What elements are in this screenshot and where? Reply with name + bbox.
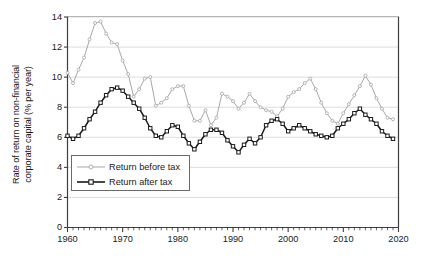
- x-tick-label: 2000: [268, 234, 308, 244]
- data-point-marker: [325, 136, 328, 139]
- data-point-marker: [314, 88, 317, 91]
- data-point-marker: [115, 86, 118, 89]
- data-point-marker: [72, 82, 75, 85]
- data-point-marker: [71, 137, 74, 140]
- chart-legend: Return before taxReturn after tax: [71, 155, 190, 191]
- y-tick-label: 4: [40, 162, 62, 172]
- data-point-marker: [160, 136, 163, 139]
- data-point-marker: [254, 100, 257, 103]
- data-point-marker: [94, 22, 97, 25]
- series-line: [68, 22, 393, 126]
- data-point-marker: [182, 85, 185, 88]
- data-point-marker: [347, 118, 350, 121]
- data-point-marker: [77, 68, 80, 71]
- data-point-marker: [110, 87, 113, 90]
- data-point-marker: [286, 130, 289, 133]
- data-point-marker: [320, 101, 323, 104]
- data-point-marker: [176, 125, 179, 128]
- data-point-marker: [358, 107, 361, 110]
- data-point-marker: [88, 38, 91, 41]
- x-tick-label: 2020: [379, 234, 419, 244]
- y-tick-label: 10: [40, 72, 62, 82]
- data-point-marker: [93, 110, 96, 113]
- data-point-marker: [331, 119, 334, 122]
- data-point-marker: [342, 112, 345, 115]
- data-point-marker: [275, 118, 278, 121]
- data-point-marker: [220, 92, 223, 95]
- data-point-marker: [215, 116, 218, 119]
- data-point-marker: [270, 110, 273, 113]
- data-point-marker: [369, 118, 372, 121]
- chart-figure: Rate of return on non-financial corporat…: [0, 0, 423, 259]
- data-point-marker: [160, 101, 163, 104]
- data-point-marker: [380, 107, 383, 110]
- data-point-marker: [270, 119, 273, 122]
- chart-plot-area: [0, 0, 423, 259]
- legend-label: Return before tax: [106, 162, 180, 172]
- data-point-marker: [226, 139, 229, 142]
- data-point-marker: [336, 127, 339, 130]
- data-point-marker: [380, 130, 383, 133]
- data-point-marker: [292, 127, 295, 130]
- data-point-marker: [132, 101, 135, 104]
- data-point-marker: [182, 134, 185, 137]
- data-point-marker: [314, 133, 317, 136]
- data-point-marker: [248, 92, 251, 95]
- y-tick-label: 14: [40, 12, 62, 22]
- data-point-marker: [358, 85, 361, 88]
- data-point-marker: [237, 151, 240, 154]
- data-point-marker: [138, 88, 141, 91]
- data-point-marker: [126, 95, 129, 98]
- y-tick-label: 6: [40, 132, 62, 142]
- data-point-marker: [149, 127, 152, 130]
- legend-line-square-icon: [76, 175, 106, 189]
- data-point-marker: [303, 82, 306, 85]
- legend-item-return-before-tax: Return before tax: [76, 159, 185, 174]
- data-point-marker: [209, 128, 212, 131]
- data-point-marker: [220, 131, 223, 134]
- y-tick-label: 8: [40, 102, 62, 112]
- data-point-marker: [248, 137, 251, 140]
- data-point-marker: [243, 101, 246, 104]
- data-point-marker: [298, 88, 301, 91]
- data-point-marker: [165, 97, 168, 100]
- data-point-marker: [88, 118, 91, 121]
- data-point-marker: [292, 91, 295, 94]
- x-tick-label: 1990: [213, 234, 253, 244]
- data-point-marker: [154, 104, 157, 107]
- x-tick-label: 2010: [323, 234, 363, 244]
- data-point-marker: [82, 127, 85, 130]
- x-tick-label: 1980: [158, 234, 198, 244]
- data-point-marker: [259, 136, 262, 139]
- data-point-marker: [353, 112, 356, 115]
- data-point-marker: [121, 89, 124, 92]
- data-point-marker: [209, 124, 212, 127]
- data-point-marker: [83, 56, 86, 59]
- data-point-marker: [242, 143, 245, 146]
- legend-item-return-after-tax: Return after tax: [76, 174, 185, 189]
- data-point-marker: [281, 122, 284, 125]
- data-point-marker: [116, 43, 119, 46]
- legend-line-circle-icon: [76, 160, 106, 174]
- data-point-marker: [66, 134, 69, 137]
- data-point-marker: [66, 71, 69, 74]
- data-point-marker: [215, 128, 218, 131]
- data-point-marker: [193, 119, 196, 122]
- data-point-marker: [375, 122, 378, 125]
- data-point-marker: [364, 74, 367, 77]
- data-point-marker: [176, 85, 179, 88]
- data-point-marker: [99, 20, 102, 23]
- data-point-marker: [110, 41, 113, 44]
- data-point-marker: [336, 122, 339, 125]
- data-point-marker: [237, 107, 240, 110]
- data-point-marker: [391, 118, 394, 121]
- data-point-marker: [143, 116, 146, 119]
- data-point-marker: [375, 97, 378, 100]
- data-point-marker: [132, 95, 135, 98]
- data-point-marker: [253, 142, 256, 145]
- data-point-marker: [298, 124, 301, 127]
- data-point-marker: [121, 59, 124, 62]
- data-point-marker: [231, 145, 234, 148]
- data-point-marker: [138, 107, 141, 110]
- data-point-marker: [342, 122, 345, 125]
